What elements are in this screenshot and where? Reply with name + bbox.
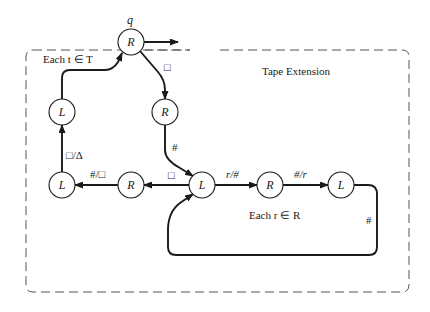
node-q: R [118,29,144,55]
node-n1: R [152,99,178,125]
node-label: L [58,178,66,192]
region-label: Tape Extension [262,65,330,77]
node-label: R [126,178,135,192]
node-label: R [126,35,135,49]
edge-label-n6-n7: #/r [294,168,308,180]
edge-label-n1-n5: # [172,141,178,153]
edge-label-n7-n5: # [366,214,372,226]
edge-label-n4-n3: #/□ [90,168,106,180]
node-n6: R [257,172,283,198]
edge-q-n1 [140,51,165,99]
node-n5: L [189,172,215,198]
node-label: L [198,178,206,192]
node-label: L [58,105,66,119]
edge-label-n3-n2: □/Δ [66,149,83,161]
loop-label-each-r: Each r ∈ R [249,209,301,221]
edge-label-n5-n6: r/# [226,168,239,180]
node-n7: L [328,172,354,198]
loop-label-each-t: Each t ∈ T [43,53,93,65]
start-state-label: q [127,13,133,27]
diagram-canvas: R R L L R L R L q □ # □ #/□ □/Δ r/# #/r … [0,0,430,312]
node-label: R [265,178,274,192]
node-label: L [337,178,345,192]
edge-label-n5-n4: □ [168,169,175,181]
edge-label-q-n1: □ [164,61,171,73]
node-n2: L [49,99,75,125]
node-n3: L [49,172,75,198]
node-label: R [160,105,169,119]
node-n4: R [118,172,144,198]
